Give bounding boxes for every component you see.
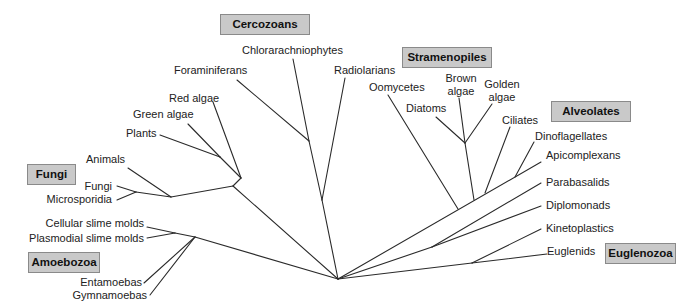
branch-red-algae xyxy=(213,102,241,178)
taxon-green-algae: Green algae xyxy=(133,108,194,121)
taxon-chlorarachniophytes: Chlorarachniophytes xyxy=(242,44,343,57)
taxon-cellular-slime-molds: Cellular slime molds xyxy=(20,217,144,230)
taxon-golden-algae-line1: Golden xyxy=(481,78,523,91)
branch-fungi-clade xyxy=(136,192,171,197)
taxon-brown-algae-line1: Brown xyxy=(441,72,481,85)
taxon-fungi: Fungi xyxy=(60,180,112,193)
branch-ciliates xyxy=(485,127,510,193)
taxon-diatoms: Diatoms xyxy=(406,102,446,115)
taxon-oomycetes: Oomycetes xyxy=(369,81,425,94)
taxon-gymnamoebas: Gymnamoebas xyxy=(60,289,147,302)
branch-fungi xyxy=(117,186,136,192)
branch-cellular-slime-molds xyxy=(147,227,175,233)
branch-chlorarachniophytes xyxy=(293,59,309,141)
branch-archaeplastida xyxy=(233,178,241,186)
taxon-red-algae: Red algae xyxy=(169,92,219,105)
taxon-microsporidia: Microsporidia xyxy=(30,193,112,206)
taxon-kinetoplastics: Kinetoplastics xyxy=(546,222,614,235)
branch-foraminiferans xyxy=(237,80,309,141)
taxon-plants: Plants xyxy=(126,127,157,140)
group-amoebozoa: Amoebozoa xyxy=(28,252,100,273)
taxon-entamoebas: Entamoebas xyxy=(60,276,142,289)
branch-diplomonads xyxy=(432,206,541,247)
taxon-apicomplexans: Apicomplexans xyxy=(546,149,621,162)
taxon-plasmodial-slime-molds: Plasmodial slime molds xyxy=(10,232,144,245)
branch-stramenopiles-core xyxy=(465,143,474,200)
branch-euglenids xyxy=(472,254,547,263)
branch-gymnamoebas xyxy=(150,237,195,295)
branch-cercozoans xyxy=(309,141,322,200)
group-cercozoans: Cercozoans xyxy=(220,14,310,35)
taxon-parabasalids: Parabasalids xyxy=(546,176,610,189)
branch-opisthokonts xyxy=(171,186,233,197)
group-alveolates: Alveolates xyxy=(551,101,631,122)
taxon-dinoflagellates: Dinoflagellates xyxy=(535,130,607,143)
taxon-diplomonads: Diplomonads xyxy=(546,199,610,212)
group-stramenopiles: Stramenopiles xyxy=(402,47,492,68)
taxon-euglenids: Euglenids xyxy=(547,245,595,258)
branch-slime-molds xyxy=(175,233,195,237)
branch-radiolarians xyxy=(322,78,345,200)
branch-euglenozoa xyxy=(338,263,472,279)
branch-kinetoplastics xyxy=(472,229,541,263)
branch-green-algae xyxy=(188,124,220,157)
taxon-brown-algae-line2: algae xyxy=(441,85,481,98)
taxon-animals: Animals xyxy=(86,153,125,166)
branch-plasmodial-slime-molds xyxy=(147,233,175,238)
branch-brown-algae xyxy=(459,98,465,143)
taxon-ciliates: Ciliates xyxy=(502,114,538,127)
branch-amoebozoa xyxy=(195,237,338,279)
taxon-foraminiferans: Foraminiferans xyxy=(174,64,247,77)
taxon-radiolarians: Radiolarians xyxy=(334,64,395,77)
group-euglenozoa: Euglenozoa xyxy=(605,243,676,264)
taxon-golden-algae-line2: algae xyxy=(481,91,523,104)
branch-diatoms xyxy=(436,117,465,143)
branch-green-plants xyxy=(220,157,241,178)
branch-golden-algae xyxy=(465,104,492,143)
branch-entamoebas xyxy=(144,237,195,283)
branch-plants xyxy=(160,135,220,157)
branch-microsporidia xyxy=(117,192,136,200)
